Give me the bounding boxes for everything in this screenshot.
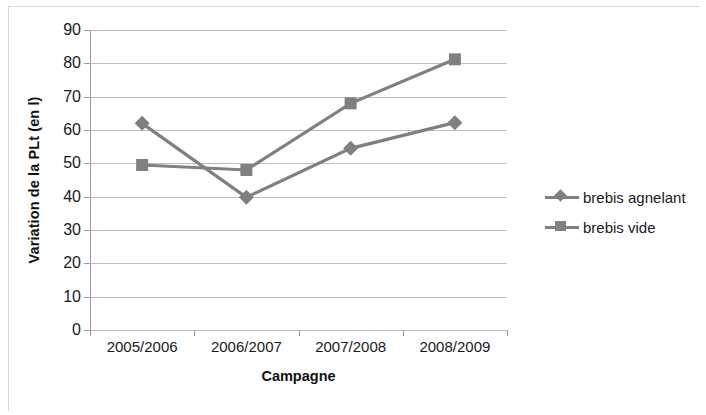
chart-legend: brebis agnelant brebis vide <box>545 182 705 242</box>
data-point-diamond-marker <box>447 115 462 130</box>
data-point-diamond-marker <box>343 141 358 156</box>
legend-label: brebis agnelant <box>583 189 686 206</box>
y-axis-title: Variation de la PLt (en l) <box>24 30 44 330</box>
x-tick-label: 2007/2008 <box>315 338 386 355</box>
y-tick-label: 60 <box>63 121 81 139</box>
x-tick-label: 2008/2009 <box>419 338 490 355</box>
y-tick-label: 80 <box>63 54 81 72</box>
x-axis-title: Campagne <box>90 368 507 384</box>
data-point-square-marker <box>240 164 252 176</box>
y-tick-label: 0 <box>72 321 81 339</box>
data-point-square-marker <box>345 97 357 109</box>
x-category-tick <box>90 330 91 336</box>
y-tick-label: 50 <box>63 154 81 172</box>
plot-area: 0102030405060708090 2005/20062006/200720… <box>90 30 507 330</box>
x-category-tick <box>403 330 404 336</box>
x-tick-label: 2006/2007 <box>211 338 282 355</box>
x-tick-label: 2005/2006 <box>107 338 178 355</box>
y-tick-label: 40 <box>63 188 81 206</box>
page-border-left <box>8 6 9 411</box>
x-category-tick <box>194 330 195 336</box>
x-category-tick <box>507 330 508 336</box>
page-border-top <box>8 6 700 7</box>
data-point-square-marker <box>449 53 461 65</box>
legend-item-brebis-agnelant: brebis agnelant <box>545 182 705 212</box>
legend-label: brebis vide <box>583 219 656 236</box>
series-line <box>142 59 455 170</box>
legend-marker-diamond-icon <box>545 188 579 206</box>
y-tick-label: 20 <box>63 254 81 272</box>
y-tick-label: 30 <box>63 221 81 239</box>
y-tick-label: 10 <box>63 288 81 306</box>
series-lines <box>90 30 507 330</box>
y-tick-label: 70 <box>63 88 81 106</box>
legend-marker-square-icon <box>545 218 579 236</box>
x-category-tick <box>299 330 300 336</box>
data-point-square-marker <box>136 159 148 171</box>
series-line <box>142 123 455 198</box>
chart-figure: Variation de la PLt (en l) 0102030405060… <box>0 0 706 415</box>
y-tick-label: 90 <box>63 21 81 39</box>
legend-item-brebis-vide: brebis vide <box>545 212 705 242</box>
